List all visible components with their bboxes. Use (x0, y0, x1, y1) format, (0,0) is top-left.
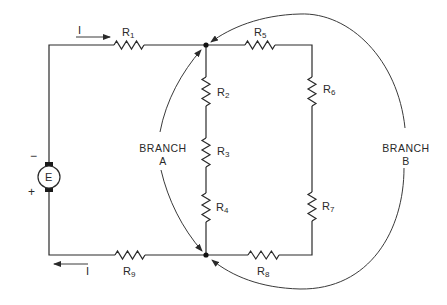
branch-b-arrow-up (211, 14, 405, 128)
resistor-r5 (245, 41, 275, 49)
branch-a-arrow-up (160, 50, 201, 132)
label-r6: R6 (323, 84, 335, 97)
branch-b-line1: BRANCH (379, 142, 433, 155)
resistor-r8 (248, 251, 279, 259)
branch-b-label: BRANCH B (379, 142, 433, 168)
branch-a-label: BRANCH A (136, 142, 190, 168)
branch-a-line1: BRANCH (136, 142, 190, 155)
label-r1: R1 (122, 27, 134, 40)
branch-b-arrow-down (212, 168, 404, 289)
junction-top (203, 42, 208, 47)
branch-b-line2: B (379, 155, 433, 168)
junction-bottom (203, 252, 208, 257)
resistor-r3 (202, 138, 210, 167)
branch-a-arrow-down (161, 170, 202, 251)
source-negative-sign: − (30, 150, 37, 162)
resistor-r4 (202, 193, 210, 222)
label-r4: R4 (216, 202, 228, 215)
label-r8: R8 (257, 266, 269, 279)
source-label: E (45, 172, 52, 183)
resistor-r2 (202, 77, 210, 106)
label-r3: R3 (217, 146, 229, 159)
label-r7: R7 (322, 201, 334, 214)
label-r2: R2 (217, 87, 229, 100)
label-r5: R5 (254, 27, 266, 40)
resistor-r7 (308, 192, 316, 221)
source-positive-sign: + (28, 186, 35, 198)
label-r9: R9 (123, 266, 135, 279)
branch-a-line2: A (136, 155, 190, 168)
current-label-bottom: I (86, 266, 89, 277)
resistor-r1 (114, 41, 144, 49)
resistor-r9 (115, 251, 145, 259)
current-label-top: I (78, 25, 81, 36)
resistor-r6 (308, 77, 316, 106)
